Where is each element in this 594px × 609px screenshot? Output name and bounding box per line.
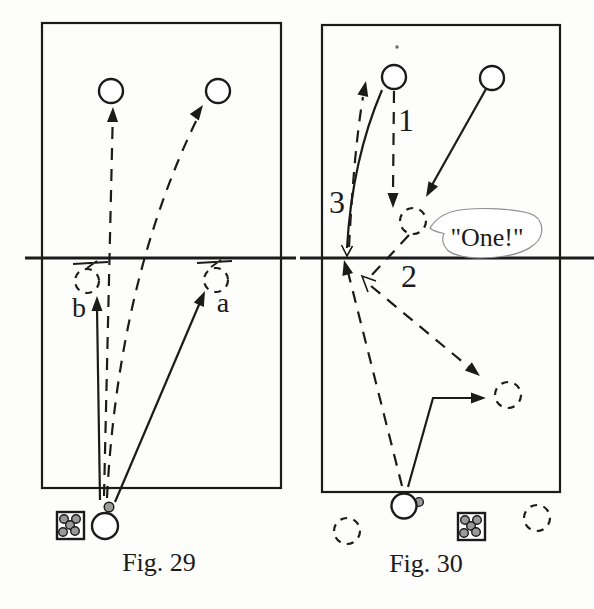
- fig30-player-left-circle: [382, 65, 406, 89]
- figure-30: "One!" 1 2 3 Fig. 30: [300, 25, 594, 578]
- fig30-run-arrow-shaft: [432, 89, 486, 185]
- fig29-label-a: a: [217, 287, 230, 318]
- fig29-cart-ball: [59, 528, 68, 537]
- fig30-cart-ball: [460, 529, 469, 538]
- fig30-pass-arrow-head: [342, 260, 353, 276]
- fig30-label-2: 2: [401, 258, 417, 294]
- fig29-block-bar-a: [197, 260, 232, 267]
- fig29-set-path-right-shaft: [107, 119, 197, 498]
- fig29-ball-cart: [57, 512, 84, 539]
- fig29-ball-dot: [104, 502, 114, 512]
- fig30-cart-ball: [472, 528, 481, 537]
- fig29-court-outline: [42, 23, 281, 488]
- fig30-speech-text: "One!": [450, 223, 523, 252]
- scanned-page: b a Fig. 29: [0, 0, 594, 609]
- fig29-server-circle: [92, 513, 118, 539]
- fig29-hitter-left-circle: [99, 79, 123, 103]
- fig30-backcourt-spot-circle: [495, 382, 521, 408]
- drill-diagrams: b a Fig. 29: [0, 0, 594, 609]
- fig30-run-arrow-head: [426, 181, 438, 197]
- fig30-elbow-run-head: [471, 393, 486, 404]
- fig30-caption: Fig. 30: [389, 549, 463, 578]
- fig30-spare-spot-right-circle: [524, 505, 550, 531]
- fig29-toss-arrow-a-head: [194, 291, 205, 307]
- fig30-path-3-shaft: [347, 90, 382, 248]
- fig30-setter-spot-circle: [400, 208, 426, 234]
- fig30-print-dot: [395, 45, 398, 48]
- fig30-up-move-head: [357, 81, 368, 97]
- fig29-target-circle-b: [75, 269, 99, 293]
- fig30-ball-cart: [458, 513, 485, 540]
- fig29-toss-arrow-b-head: [92, 296, 103, 311]
- fig29-set-path-left-head: [107, 107, 118, 122]
- fig29-cart-ball: [71, 527, 80, 536]
- fig30-label-1: 1: [398, 102, 414, 138]
- fig30-move-1-head: [388, 193, 399, 208]
- fig29-block-bar-b: [73, 261, 108, 268]
- fig29-hitter-right-circle: [206, 79, 230, 103]
- fig30-path-2-lower-head: [465, 362, 480, 376]
- fig30-label-3: 3: [329, 184, 345, 220]
- figure-29: b a Fig. 29: [25, 23, 296, 577]
- fig29-set-path-right-head: [190, 105, 203, 120]
- fig29-set-path-left-shaft: [104, 124, 113, 496]
- fig30-server-circle: [392, 494, 417, 519]
- fig29-toss-arrow-b-shaft: [97, 308, 100, 500]
- fig30-player-right-circle: [480, 66, 504, 90]
- fig29-caption: Fig. 29: [122, 548, 196, 577]
- fig30-path-2-lower-shaft: [371, 286, 470, 368]
- fig30-move-1-shaft: [393, 91, 394, 192]
- fig30-spare-spot-left-circle: [334, 518, 360, 544]
- fig29-label-b: b: [72, 292, 86, 323]
- fig30-elbow-run-shaft: [408, 398, 472, 487]
